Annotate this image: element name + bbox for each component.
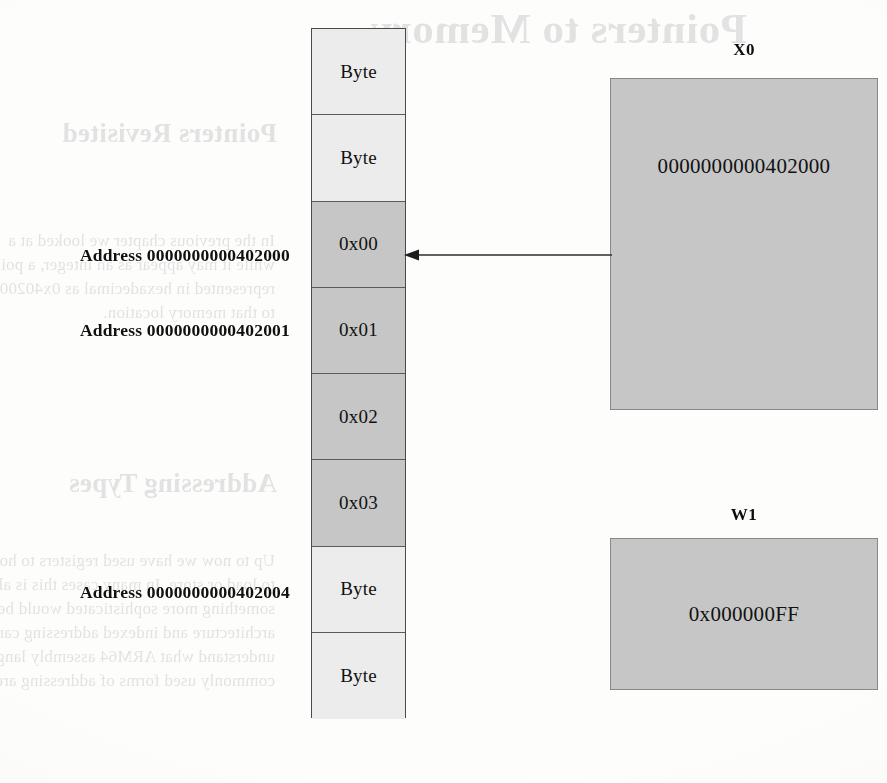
register-value-w1: 0x000000FF	[689, 602, 799, 627]
memory-cell: 0x01	[312, 288, 405, 374]
address-label: Address 0000000000402001	[80, 320, 290, 341]
memory-cell: 0x03	[312, 460, 405, 546]
memory-cell: Byte	[312, 547, 405, 633]
register-box-x0: 0000000000402000	[610, 78, 878, 410]
bleed-through-text: Addressing Types	[69, 468, 277, 499]
bleed-through-text: understand what ARM64 assembly language …	[0, 644, 275, 669]
bleed-through-text: represented in hexadecimal as 0x402000, …	[0, 276, 275, 301]
register-value-x0: 0000000000402000	[658, 154, 831, 179]
memory-cell: Byte	[312, 633, 405, 719]
bleed-through-text: Pointers Revisited	[62, 118, 277, 149]
bleed-through-text: commonly used forms of addressing are de…	[0, 668, 275, 693]
address-label: Address 0000000000402004	[80, 582, 290, 603]
pointer-arrow-icon	[404, 241, 612, 269]
memory-cell: 0x00	[312, 202, 405, 288]
memory-cell: Byte	[312, 29, 405, 115]
figure-page: Pointers to MemoryPointers RevisitedIn t…	[0, 0, 887, 783]
register-box-w1: 0x000000FF	[610, 538, 878, 690]
bleed-through-text: Up to now we have used registers to hold…	[0, 548, 275, 573]
memory-column: ByteByte0x000x010x020x03ByteByte	[311, 28, 406, 718]
memory-cell: 0x02	[312, 374, 405, 460]
bleed-through-text: architecture and indexed addressing can …	[0, 620, 275, 645]
address-label: Address 0000000000402000	[80, 245, 290, 266]
register-label-x0: X0	[610, 40, 878, 60]
register-label-w1: W1	[610, 505, 878, 525]
memory-cell: Byte	[312, 115, 405, 201]
